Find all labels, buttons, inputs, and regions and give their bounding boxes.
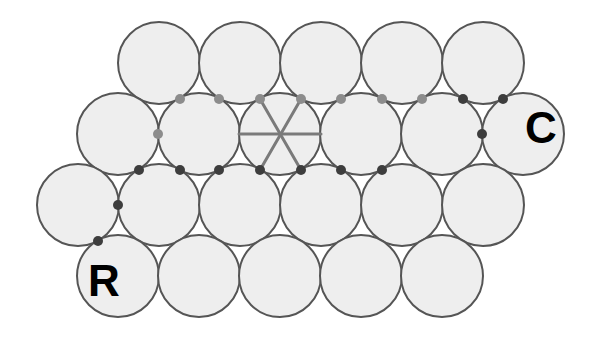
packing-circle xyxy=(401,93,483,175)
packing-circle xyxy=(199,22,281,104)
contact-point-dot xyxy=(296,165,306,175)
contact-point-dot xyxy=(336,165,346,175)
packing-circle xyxy=(199,164,281,246)
contact-point-dot xyxy=(113,200,123,210)
packing-circle xyxy=(239,235,321,317)
packing-circle xyxy=(280,164,362,246)
packing-figure: CR xyxy=(0,0,615,360)
packing-circle xyxy=(118,164,200,246)
contact-point-dot xyxy=(153,129,163,139)
contact-point-dot xyxy=(477,129,487,139)
contact-point-dot xyxy=(336,94,346,104)
packing-circle xyxy=(77,93,159,175)
packing-circle xyxy=(361,22,443,104)
packing-circle xyxy=(158,235,240,317)
contact-point-dot xyxy=(377,165,387,175)
contact-point-dot xyxy=(214,165,224,175)
contact-point-dot xyxy=(377,94,387,104)
label-r: R xyxy=(88,256,120,305)
contact-point-dot xyxy=(93,236,103,246)
circle-packing-canvas: CR xyxy=(0,0,615,360)
packing-circle xyxy=(37,164,119,246)
contact-point-dot xyxy=(498,94,508,104)
contact-point-dot xyxy=(214,94,224,104)
packing-circle xyxy=(280,22,362,104)
packing-circle xyxy=(361,164,443,246)
packing-circle xyxy=(320,93,402,175)
contact-point-dot xyxy=(255,94,265,104)
packing-circle xyxy=(118,22,200,104)
contact-point-dot xyxy=(255,165,265,175)
contact-point-dot xyxy=(175,165,185,175)
packing-circle xyxy=(158,93,240,175)
packing-circle xyxy=(320,235,402,317)
contact-point-dot xyxy=(458,94,468,104)
packing-circle xyxy=(442,22,524,104)
label-c: C xyxy=(525,103,557,152)
packing-circle xyxy=(442,164,524,246)
contact-point-dot xyxy=(134,165,144,175)
contact-point-dot xyxy=(175,94,185,104)
contact-point-dot xyxy=(417,94,427,104)
packing-circle xyxy=(401,235,483,317)
contact-point-dot xyxy=(296,94,306,104)
